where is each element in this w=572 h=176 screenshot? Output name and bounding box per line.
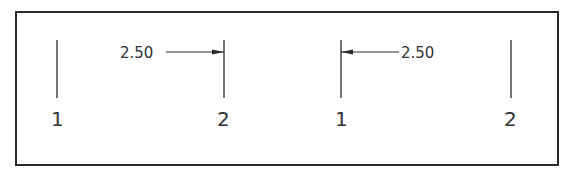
point-label-2: 2 xyxy=(504,107,517,131)
dimension-diagram: 2.50 1 2 2.50 1 2 xyxy=(0,0,572,176)
point-label-1: 1 xyxy=(51,107,64,131)
left-dimension-example: 2.50 1 2 xyxy=(51,40,230,131)
dimension-text: 2.50 xyxy=(401,44,434,62)
right-dimension-example: 2.50 1 2 xyxy=(335,40,517,131)
point-label-2: 2 xyxy=(217,107,230,131)
point-label-1: 1 xyxy=(335,107,348,131)
dimension-text: 2.50 xyxy=(120,44,153,62)
